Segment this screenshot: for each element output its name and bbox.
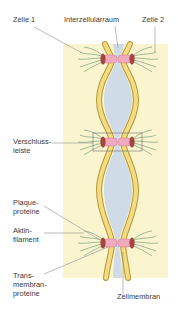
cell-junction-diagram	[0, 0, 178, 314]
label-line: Aktin-	[13, 226, 39, 235]
transmembrane-protein-right	[118, 239, 131, 247]
label-line: membran-	[13, 280, 47, 289]
label-line: Verschluss-	[13, 137, 51, 146]
label-verschlussleiste: Verschluss- leiste	[13, 137, 51, 155]
transmembrane-protein-left	[104, 138, 117, 146]
plaque-left	[100, 238, 105, 249]
label-zellmembran: Zellmembran	[117, 292, 160, 301]
transmembrane-protein-right	[118, 55, 131, 63]
label-zelle-1: Zelle 1	[13, 15, 35, 24]
plaque-left	[100, 137, 105, 148]
plaque-right	[129, 54, 134, 65]
leader-zelle1	[34, 27, 82, 53]
label-aktinfilament: Aktin- filament	[13, 226, 39, 244]
plaque-right	[129, 238, 134, 249]
plaque-right	[129, 137, 134, 148]
label-line: Plaque-	[13, 198, 40, 207]
transmembrane-protein-left	[104, 239, 117, 247]
transmembrane-protein-left	[104, 55, 117, 63]
label-zelle-2: Zelle 2	[142, 15, 164, 24]
label-line: filament	[13, 235, 39, 244]
label-line: proteine	[13, 289, 47, 298]
transmembrane-protein-right	[118, 138, 131, 146]
label-plaqueproteine: Plaque- proteine	[13, 198, 40, 216]
label-interzellularraum: Interzellularraum	[64, 15, 119, 24]
label-line: leiste	[13, 146, 51, 155]
plaque-left	[100, 54, 105, 65]
label-line: Trans-	[13, 271, 47, 280]
label-transmembranproteine: Trans- membran- proteine	[13, 271, 47, 298]
label-line: proteine	[13, 207, 40, 216]
